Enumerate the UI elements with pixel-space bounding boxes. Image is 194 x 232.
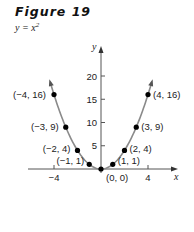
y-tick-label: 10 bbox=[86, 117, 97, 128]
data-point bbox=[87, 162, 92, 167]
data-point bbox=[122, 148, 127, 153]
data-point bbox=[63, 125, 68, 130]
x-axis-label: x bbox=[173, 171, 179, 182]
x-tick-label: −4 bbox=[49, 172, 60, 183]
data-point bbox=[98, 166, 103, 171]
data-point bbox=[75, 148, 80, 153]
data-point bbox=[51, 92, 56, 97]
point-label: (−3, 9) bbox=[31, 121, 59, 132]
point-label: (3, 9) bbox=[141, 121, 163, 132]
point-label: (−4, 16) bbox=[13, 89, 46, 100]
point-label: (0, 0) bbox=[106, 172, 128, 183]
y-axis-label: y bbox=[91, 41, 97, 52]
parabola-plot: xy5101520−44(−4, 16)(−3, 9)(−2, 4)(−1, 1… bbox=[0, 0, 194, 232]
data-point bbox=[110, 162, 115, 167]
y-tick-label: 5 bbox=[92, 140, 97, 151]
point-label: (−1, 1) bbox=[57, 155, 85, 166]
data-point bbox=[134, 125, 139, 130]
point-label: (1, 1) bbox=[118, 155, 140, 166]
y-axis-arrow-icon bbox=[99, 46, 104, 53]
point-label: (−2, 4) bbox=[43, 143, 71, 154]
data-point bbox=[145, 92, 150, 97]
curve-arrow-icon bbox=[148, 79, 153, 86]
y-tick-label: 15 bbox=[86, 94, 97, 105]
curve-arrow-icon bbox=[49, 79, 54, 86]
y-tick-label: 20 bbox=[86, 71, 97, 82]
point-label: (2, 4) bbox=[130, 143, 152, 154]
point-label: (4, 16) bbox=[153, 89, 180, 100]
x-tick-label: 4 bbox=[145, 172, 150, 183]
